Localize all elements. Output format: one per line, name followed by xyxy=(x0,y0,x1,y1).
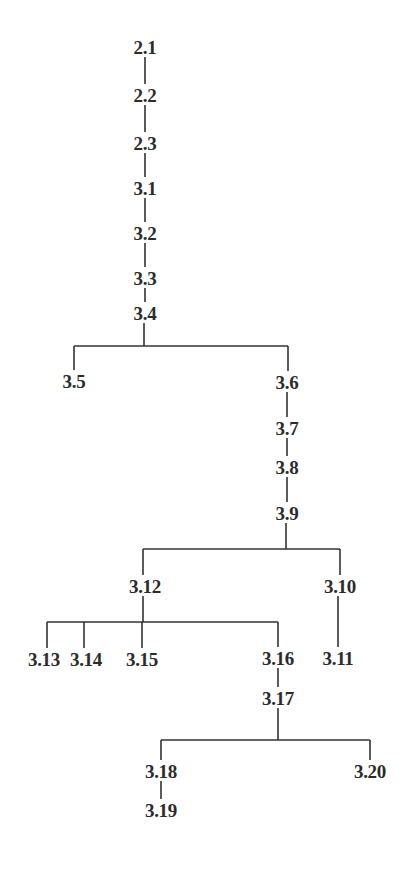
node-2-3: 2.3 xyxy=(134,134,157,153)
node-3-7: 3.7 xyxy=(276,419,299,438)
tree-edges xyxy=(0,0,409,869)
node-3-12: 3.12 xyxy=(129,577,161,596)
node-3-4: 3.4 xyxy=(134,304,157,323)
node-3-8: 3.8 xyxy=(276,458,299,477)
node-3-6: 3.6 xyxy=(276,373,299,392)
node-3-9: 3.9 xyxy=(276,504,299,523)
node-3-1: 3.1 xyxy=(134,179,157,198)
node-3-3: 3.3 xyxy=(134,269,157,288)
node-3-10: 3.10 xyxy=(324,577,356,596)
node-3-5: 3.5 xyxy=(63,372,86,391)
node-3-20: 3.20 xyxy=(354,762,386,781)
node-3-15: 3.15 xyxy=(126,650,158,669)
node-3-17: 3.17 xyxy=(262,689,294,708)
node-3-19: 3.19 xyxy=(145,801,177,820)
node-2-1: 2.1 xyxy=(134,38,157,57)
node-3-18: 3.18 xyxy=(145,762,177,781)
node-3-2: 3.2 xyxy=(134,224,157,243)
node-2-2: 2.2 xyxy=(134,86,157,105)
node-3-14: 3.14 xyxy=(70,650,102,669)
node-3-11: 3.11 xyxy=(322,649,353,668)
node-3-16: 3.16 xyxy=(262,649,294,668)
node-3-13: 3.13 xyxy=(28,650,60,669)
